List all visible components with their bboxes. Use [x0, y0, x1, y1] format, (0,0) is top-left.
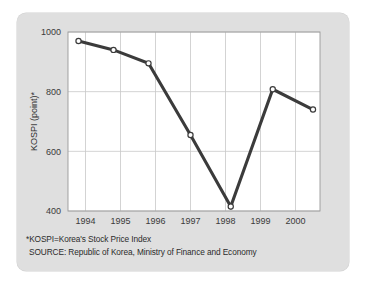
x-axis-tick-label: 1999: [250, 216, 270, 226]
y-axis-tick-label: 400: [46, 206, 61, 216]
data-point-marker: [310, 107, 315, 112]
chart-footnotes: *KOSPI=Korea's Stock Price Index SOURCE:…: [26, 233, 340, 259]
x-axis-tick-label: 1998: [215, 216, 235, 226]
plot-area-background: [68, 32, 320, 211]
y-axis-tick-label: 1000: [41, 27, 61, 37]
x-axis-tick-label: 2000: [285, 216, 305, 226]
x-axis-tick-label: 1997: [180, 216, 200, 226]
chart-figure-card: 4006008001000199419951996199719981999200…: [17, 13, 349, 271]
data-point-marker: [76, 38, 81, 43]
footnote-source: SOURCE: Republic of Korea, Ministry of F…: [26, 246, 340, 259]
y-axis-tick-label: 600: [46, 147, 61, 157]
x-axis-tick-label: 1995: [110, 216, 130, 226]
y-axis-tick-label: 800: [46, 87, 61, 97]
data-point-marker: [228, 204, 233, 209]
data-point-marker: [111, 47, 116, 52]
footnote-definition: *KOSPI=Korea's Stock Price Index: [26, 233, 340, 246]
y-axis-title: KOSPI (point)*: [29, 91, 39, 151]
data-point-marker: [270, 87, 275, 92]
x-axis-tick-label: 1994: [75, 216, 95, 226]
x-axis-tick-label: 1996: [145, 216, 165, 226]
data-point-marker: [188, 132, 193, 137]
data-point-marker: [146, 61, 151, 66]
